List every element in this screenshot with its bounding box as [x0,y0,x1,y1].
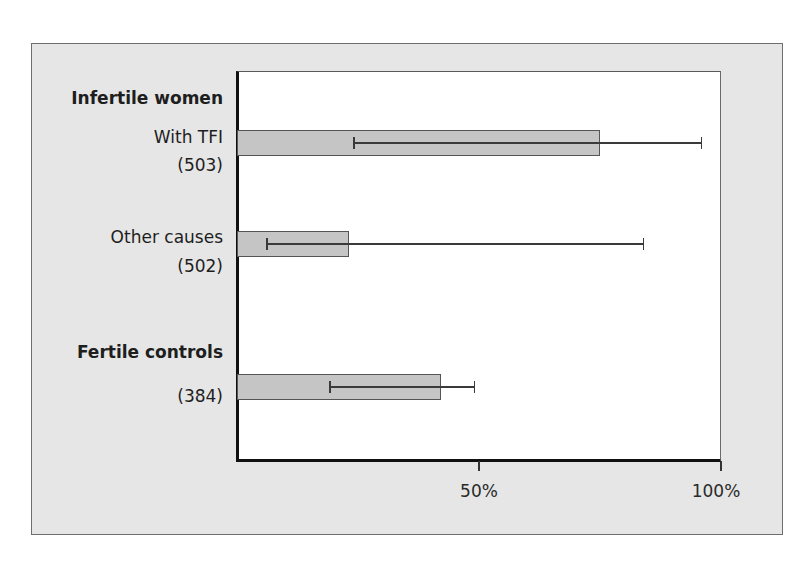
row-label-other-causes: Other causes [111,227,223,247]
row-label-with-tfi: With TFI [154,127,223,147]
group-label-infertile-women: Infertile women [71,88,223,108]
error-bar [354,142,702,144]
error-bar-cap [474,381,476,393]
x-tick-label-50: 50% [460,481,498,501]
error-bar-cap [266,238,268,250]
error-bar-cap [701,137,703,149]
row-count-other-causes: (502) [177,256,223,276]
error-bar [267,243,644,245]
error-bar [330,386,475,388]
group-label-fertile-controls: Fertile controls [77,342,223,362]
x-tick-100 [720,461,722,471]
x-tick-50 [478,461,480,471]
error-bar-cap [643,238,645,250]
row-count-fertile-controls: (384) [177,386,223,406]
row-count-with-tfi: (503) [177,155,223,175]
error-bar-cap [329,381,331,393]
error-bar-cap [353,137,355,149]
x-tick-label-100: 100% [692,481,741,501]
